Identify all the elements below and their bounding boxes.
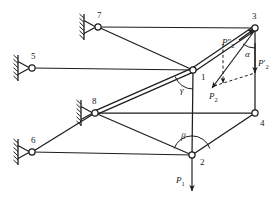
support-hatch-7 bbox=[80, 31, 85, 35]
joint-1[interactable] bbox=[190, 67, 196, 73]
joint-4[interactable] bbox=[252, 110, 258, 116]
support-hatch-5 bbox=[14, 76, 19, 80]
member-6-8 bbox=[32, 113, 95, 152]
support-hatch-7 bbox=[80, 22, 85, 26]
angle-alpha-label: α bbox=[245, 50, 250, 59]
support-triangle-7 bbox=[84, 21, 96, 34]
support-hatch-6 bbox=[14, 147, 19, 151]
support-hatch-6 bbox=[14, 156, 19, 160]
joint-2[interactable] bbox=[189, 152, 195, 158]
force-p2-double-prime-label: P″2 bbox=[222, 38, 235, 49]
diagram-canvas: 12345678γβαP1P2P″2P′2 bbox=[0, 0, 280, 198]
support-hatch-8 bbox=[77, 100, 82, 104]
node-label-3: 3 bbox=[252, 12, 257, 21]
support-hatch-7 bbox=[80, 35, 85, 39]
member-8-1 bbox=[94, 68, 192, 111]
support-hatch-6 bbox=[14, 160, 19, 164]
node-label-8: 8 bbox=[92, 97, 97, 106]
node-label-1: 1 bbox=[201, 73, 206, 82]
support-triangle-5 bbox=[18, 62, 30, 75]
support-hatch-5 bbox=[14, 55, 19, 59]
support-8 bbox=[77, 100, 93, 126]
member-6-2 bbox=[32, 152, 192, 155]
support-hatch-7 bbox=[80, 27, 85, 31]
supports-layer bbox=[14, 14, 96, 165]
support-hatch-5 bbox=[14, 68, 19, 72]
support-hatch-6 bbox=[14, 143, 19, 147]
member-7-1 bbox=[98, 27, 193, 70]
node-label-4: 4 bbox=[260, 119, 265, 128]
support-hatch-5 bbox=[14, 72, 19, 76]
joint-7[interactable] bbox=[95, 24, 101, 30]
support-hatch-7 bbox=[80, 14, 85, 18]
joint-6[interactable] bbox=[29, 149, 35, 155]
support-hatch-8 bbox=[77, 108, 82, 112]
angle-beta-label: β bbox=[181, 132, 185, 141]
support-hatch-8 bbox=[77, 113, 82, 117]
truss-diagram-svg bbox=[0, 0, 280, 198]
support-hatch-8 bbox=[77, 117, 82, 121]
joint-3[interactable] bbox=[252, 25, 258, 31]
support-triangle-6 bbox=[18, 146, 30, 159]
support-hatch-6 bbox=[14, 139, 19, 143]
force-p2-resolution-link bbox=[214, 73, 255, 86]
support-hatch-5 bbox=[14, 63, 19, 67]
support-hatch-5 bbox=[14, 59, 19, 63]
support-7 bbox=[80, 14, 96, 40]
node-label-5: 5 bbox=[31, 52, 36, 61]
support-hatch-7 bbox=[80, 18, 85, 22]
joint-8[interactable] bbox=[92, 110, 98, 116]
support-6 bbox=[14, 139, 30, 165]
node-label-6: 6 bbox=[31, 136, 36, 145]
member-1-2 bbox=[192, 70, 193, 155]
force-p1-label: P1 bbox=[176, 176, 185, 187]
support-hatch-8 bbox=[77, 104, 82, 108]
member-8-2 bbox=[95, 113, 192, 155]
member-5-1 bbox=[32, 68, 193, 70]
joint-5[interactable] bbox=[29, 65, 35, 71]
member-7-3 bbox=[98, 27, 255, 28]
node-label-2: 2 bbox=[200, 158, 205, 167]
force-p2-label: P2 bbox=[209, 92, 218, 103]
angle-gamma-label: γ bbox=[180, 86, 184, 95]
node-label-7: 7 bbox=[97, 11, 102, 20]
member-2-4 bbox=[192, 113, 255, 155]
support-5 bbox=[14, 55, 30, 81]
support-hatch-6 bbox=[14, 152, 19, 156]
force-p2-prime-label: P′2 bbox=[258, 59, 269, 70]
